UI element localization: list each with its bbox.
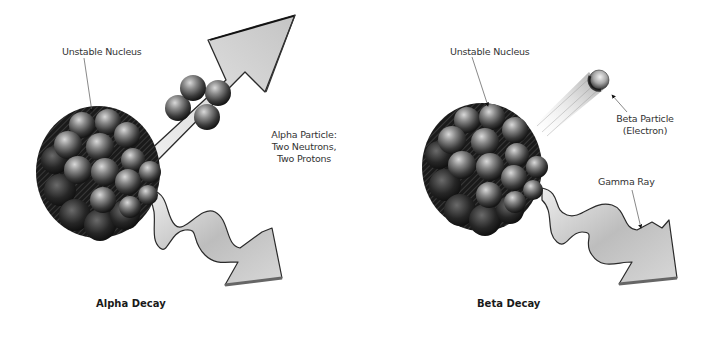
alpha-particle [165,75,231,130]
gamma-ray-arrow [542,188,677,284]
alpha-particle-label-line3: Two Protons [264,153,344,165]
electron-pointer-line [612,95,627,112]
alpha-unstable-nucleus [36,106,161,241]
alpha-decay-caption: Alpha Decay [96,298,166,309]
alpha-decay-panel: Unstable Nucleus Alpha Particle: Two Neu… [0,0,357,337]
beta-particle-label-line1: Beta Particle [610,113,680,125]
beta-particle-label-line2: (Electron) [610,125,680,137]
wave-emission-arrow [150,190,282,285]
beta-decay-panel: Unstable Nucleus Beta Particle (Electron… [357,0,714,337]
nucleus-pointer-line [472,57,488,106]
beta-decay-caption: Beta Decay [477,298,540,309]
alpha-nucleus-label: Unstable Nucleus [62,46,142,58]
alpha-decay-illustration [0,0,357,337]
beta-unstable-nucleus [422,103,548,236]
alpha-particle-label-line2: Two Neutrons, [264,141,344,153]
alpha-particle-label: Alpha Particle: Two Neutrons, Two Proton… [264,129,344,165]
gamma-ray-label: Gamma Ray [598,176,655,188]
gamma-pointer-line [632,190,641,228]
beta-nucleus-label: Unstable Nucleus [450,46,530,58]
nucleus-pointer-line [84,58,92,112]
beta-particle-label: Beta Particle (Electron) [610,113,680,137]
beta-decay-illustration [357,0,714,337]
alpha-particle-label-line1: Alpha Particle: [264,129,344,141]
